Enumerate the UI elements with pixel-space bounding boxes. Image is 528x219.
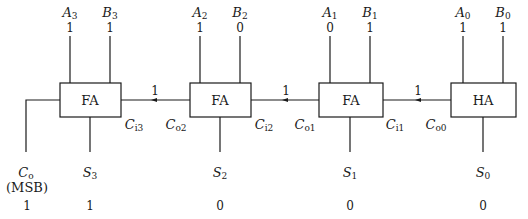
input-b0-value: 1 [499, 21, 507, 35]
carry-value-3: 1 [151, 84, 159, 98]
input-a3-value: 1 [66, 21, 74, 35]
fa3-label: FA [81, 93, 98, 108]
input-b1-value: 1 [366, 21, 374, 35]
fa1-label: FA [342, 93, 359, 108]
adder-wiring [0, 0, 528, 219]
arrow-left-icon [282, 98, 288, 102]
arrow-left-icon [415, 98, 421, 102]
carry-value-2: 1 [282, 84, 290, 98]
output-s0-value: 0 [479, 199, 487, 213]
output-s0-label: S0 [476, 166, 491, 183]
output-s1-value: 0 [346, 199, 354, 213]
output-s2-label: S2 [213, 166, 228, 183]
msb-note: (MSB) [6, 181, 48, 194]
output-s1-label: S1 [343, 166, 358, 183]
input-a1-value: 0 [326, 21, 334, 35]
ha0-label: HA [473, 93, 494, 108]
input-b2-value: 0 [236, 21, 244, 35]
ci3-label: Ci3 [125, 118, 144, 135]
ci1-label: Ci1 [386, 118, 405, 135]
output-s3-value: 1 [86, 199, 94, 213]
fa2-label: FA [211, 93, 228, 108]
co0-label: Co0 [425, 118, 446, 135]
input-b3-value: 1 [106, 21, 114, 35]
input-a0-value: 1 [459, 21, 467, 35]
co2-label: Co2 [165, 118, 186, 135]
input-a2-value: 1 [196, 21, 204, 35]
ci2-label: Ci2 [255, 118, 274, 135]
co1-label: Co1 [294, 118, 315, 135]
output-s2-value: 0 [216, 199, 224, 213]
output-co-value: 1 [23, 199, 31, 213]
output-s3-label: S3 [83, 166, 98, 183]
arrow-left-icon [151, 98, 157, 102]
carry-value-1: 1 [414, 84, 422, 98]
